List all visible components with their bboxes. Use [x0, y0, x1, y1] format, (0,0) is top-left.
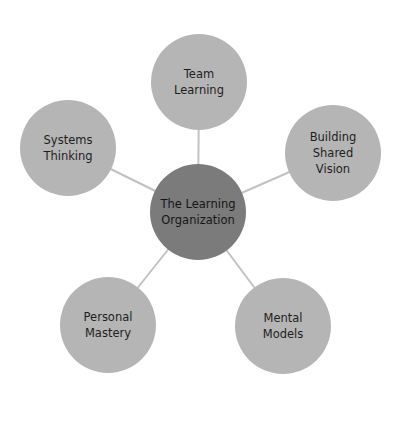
center-label: The Learning Organization	[161, 196, 236, 228]
node-label: Team Learning	[174, 66, 224, 98]
node-label: Personal Mastery	[84, 309, 133, 341]
node-building-shared-vision: Building Shared Vision	[285, 105, 381, 201]
node-systems-thinking: Systems Thinking	[20, 100, 116, 196]
node-personal-mastery: Personal Mastery	[60, 277, 156, 373]
node-mental-models: Mental Models	[235, 278, 331, 374]
node-team-learning: Team Learning	[151, 34, 247, 130]
node-center-learning-organization: The Learning Organization	[150, 164, 246, 260]
node-label: Systems Thinking	[43, 132, 92, 164]
node-label: Building Shared Vision	[310, 129, 357, 177]
node-label: Mental Models	[263, 310, 304, 342]
